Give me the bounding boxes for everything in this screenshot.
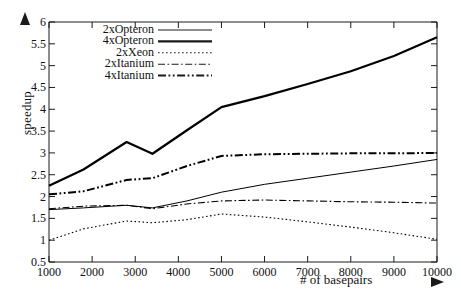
legend-label-4xitanium: 4xItanium [62,69,154,81]
series-line-2xitanium [49,200,437,209]
series-line-2xxeon [49,214,437,240]
chart-figure: speedup # of basepairs 0.511.522.533.544… [0,0,461,300]
legend-sample-lines [158,30,212,76]
